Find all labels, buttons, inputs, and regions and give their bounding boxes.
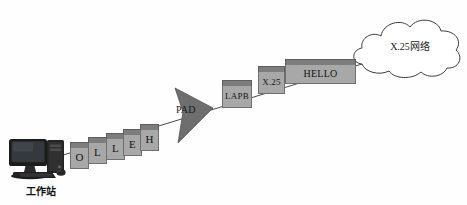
protocol-box-label: X.25 xyxy=(262,74,281,87)
protocol-box-label: HELLO xyxy=(304,65,338,79)
protocol-box-x25[interactable]: X.25 xyxy=(258,66,285,94)
letter-packet-label: E xyxy=(129,135,136,150)
packet-cap xyxy=(258,66,285,72)
letter-packet-o[interactable]: O xyxy=(70,142,89,169)
letter-packet-label: H xyxy=(145,130,153,145)
letter-packet-h[interactable]: H xyxy=(140,124,159,151)
diagram-canvas: PAD X.25网络 O L L E H LAPB X.25 HELLO 工作站 xyxy=(0,0,467,205)
protocol-box-hello[interactable]: HELLO xyxy=(285,59,356,84)
letter-packet-label: L xyxy=(112,139,119,154)
desktop-computer-icon xyxy=(9,139,66,179)
cloud-label: X.25网络 xyxy=(374,38,446,53)
letter-packet-label: L xyxy=(94,143,101,158)
letter-packet-label: O xyxy=(75,148,83,163)
protocol-box-label: LAPB xyxy=(225,88,249,101)
protocol-box-lapb[interactable]: LAPB xyxy=(222,80,252,108)
pad-label: PAD xyxy=(176,104,196,115)
pad-triangle-shape xyxy=(175,88,213,143)
packet-cap xyxy=(222,80,252,86)
letter-packet-l1[interactable]: L xyxy=(88,137,107,164)
workstation-label: 工作站 xyxy=(8,183,74,198)
